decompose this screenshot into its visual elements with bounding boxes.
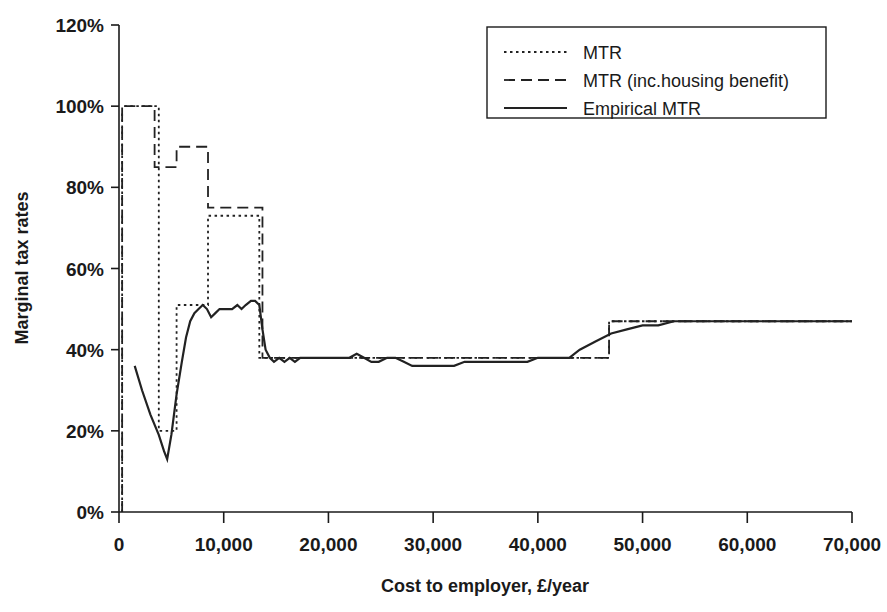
legend-label: MTR bbox=[583, 43, 622, 63]
x-tick-label: 10,000 bbox=[195, 534, 253, 555]
y-axis: 0%20%40%60%80%100%120% Marginal tax rate… bbox=[12, 15, 119, 523]
y-tick-label: 20% bbox=[66, 421, 104, 442]
x-tick-label: 70,000 bbox=[823, 534, 881, 555]
y-axis-title: Marginal tax rates bbox=[12, 191, 32, 344]
y-tick-label: 120% bbox=[55, 15, 104, 36]
y-tick-label: 0% bbox=[77, 502, 105, 523]
y-tick-label: 40% bbox=[66, 340, 104, 361]
x-tick-label: 50,000 bbox=[614, 534, 672, 555]
x-tick-label: 30,000 bbox=[404, 534, 462, 555]
x-tick-label: 60,000 bbox=[718, 534, 776, 555]
y-tick-label: 80% bbox=[66, 177, 104, 198]
chart-container: 0%20%40%60%80%100%120% Marginal tax rate… bbox=[0, 0, 887, 612]
x-axis-title: Cost to employer, £/year bbox=[381, 576, 589, 596]
x-tick-label: 20,000 bbox=[299, 534, 357, 555]
legend-label: MTR (inc.housing benefit) bbox=[583, 71, 789, 91]
legend: MTRMTR (inc.housing benefit)Empirical MT… bbox=[487, 27, 826, 119]
y-tick-label: 60% bbox=[66, 259, 104, 280]
y-tick-label: 100% bbox=[55, 96, 104, 117]
series-group bbox=[122, 106, 852, 512]
x-axis-ticks: 010,00020,00030,00040,00050,00060,00070,… bbox=[114, 512, 881, 555]
x-tick-label: 0 bbox=[114, 534, 125, 555]
x-tick-label: 40,000 bbox=[509, 534, 567, 555]
legend-label: Empirical MTR bbox=[583, 99, 701, 119]
series-solid bbox=[135, 301, 852, 459]
y-axis-ticks: 0%20%40%60%80%100%120% bbox=[55, 15, 119, 523]
plot-area bbox=[122, 106, 852, 512]
x-axis: 010,00020,00030,00040,00050,00060,00070,… bbox=[114, 512, 881, 596]
marginal-tax-rates-chart: 0%20%40%60%80%100%120% Marginal tax rate… bbox=[0, 0, 887, 612]
